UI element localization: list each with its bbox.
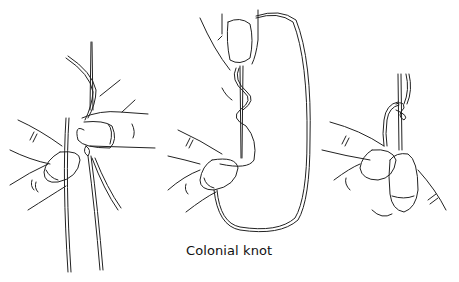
figure-caption: Colonial knot — [186, 243, 272, 258]
panel-1-hands-icon — [10, 42, 155, 272]
panel-2-hands-icon — [168, 10, 310, 232]
colonial-knot-illustration — [0, 0, 459, 282]
panel-3-hands-icon — [322, 74, 446, 216]
